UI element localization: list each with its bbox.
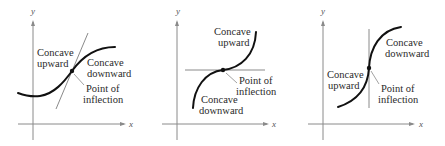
label-point-of-inflection-2: inflection [83, 94, 124, 105]
y-axis-label: y [320, 6, 325, 16]
label-point-of-inflection-2: inflection [378, 94, 419, 105]
x-axis-label: x [271, 119, 276, 129]
label-concave-downward-1: Concave [386, 37, 423, 48]
label-concave-upward-2: upward [328, 80, 360, 91]
x-axis-label: x [418, 119, 423, 129]
label-concave-upward-1: Concave [214, 26, 251, 37]
y-axis-label: y [175, 6, 180, 16]
label-point-of-inflection-2: inflection [236, 86, 277, 97]
leader-line [74, 74, 84, 85]
y-axis-arrow-icon [31, 20, 35, 26]
label-concave-downward-1: Concave [201, 94, 238, 105]
label-concave-upward-1: Concave [37, 47, 74, 58]
panel-2-horizontal-tangent: y x Concave upward Point of inflection C… [162, 6, 277, 140]
label-concave-downward-2: downward [87, 68, 132, 79]
inflection-point [367, 66, 371, 70]
label-concave-upward-1: Concave [327, 69, 364, 80]
label-concave-downward-2: downward [385, 48, 430, 59]
label-point-of-inflection-1: Point of [239, 75, 273, 86]
leader-line [226, 73, 237, 83]
x-axis-arrow-icon [120, 122, 126, 126]
inflection-diagrams: y x Concave upward Concave downward Poin… [0, 0, 445, 146]
y-axis-label: y [30, 6, 35, 16]
inflection-point [70, 69, 74, 73]
inflection-point [221, 68, 225, 72]
label-point-of-inflection-1: Point of [86, 83, 120, 94]
x-axis-arrow-icon [409, 122, 415, 126]
x-axis-arrow-icon [263, 122, 269, 126]
label-concave-downward-2: downward [199, 105, 244, 116]
y-axis-arrow-icon [175, 20, 179, 26]
panel-3-vertical-tangent: y x Concave downward Concave upward Poin… [308, 6, 430, 140]
panel-1-oblique-tangent: y x Concave upward Concave downward Poin… [18, 6, 133, 140]
label-point-of-inflection-1: Point of [381, 83, 415, 94]
label-concave-upward-2: upward [218, 37, 250, 48]
x-axis-label: x [128, 119, 133, 129]
label-concave-upward-2: upward [37, 58, 69, 69]
y-axis-arrow-icon [321, 20, 325, 26]
label-concave-downward-1: Concave [87, 57, 124, 68]
leader-line [371, 71, 379, 84]
